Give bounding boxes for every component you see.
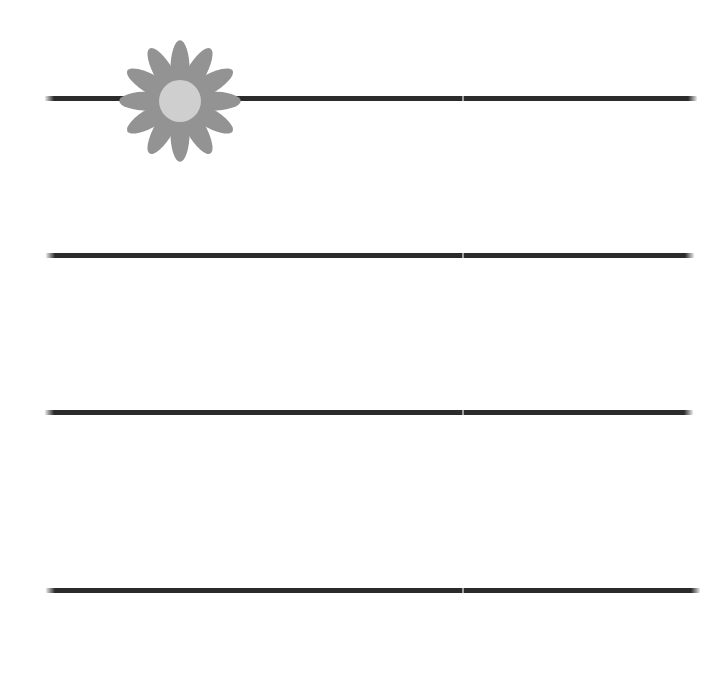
rule-line-4-seam (462, 587, 464, 594)
flower-petal (170, 102, 189, 162)
flower-petal-group (119, 40, 241, 162)
rule-line-4 (46, 588, 700, 593)
rule-line-3-seam (462, 409, 464, 416)
flower-petal (170, 40, 189, 100)
rule-line-1-seam (462, 95, 464, 102)
rule-line-3 (45, 410, 693, 415)
rule-line-2-seam (462, 252, 464, 259)
flower-petal (119, 91, 179, 110)
worksheet-page (0, 0, 713, 680)
flower-center-icon (159, 80, 201, 122)
rule-line-2 (46, 253, 694, 258)
flower-petal (176, 62, 237, 108)
flower-petal (172, 97, 218, 158)
flower-icon (118, 29, 242, 173)
flower-petal (123, 62, 184, 108)
rule-line-1 (45, 96, 697, 101)
flower-petal (181, 91, 241, 110)
flower-petal (141, 97, 187, 158)
